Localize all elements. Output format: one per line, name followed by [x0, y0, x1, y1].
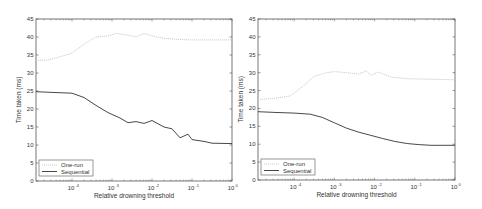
- x-tick-label: 10: [148, 185, 155, 191]
- subplot-2: 05101520253035404510-410-310-210-1100Rel…: [237, 16, 462, 199]
- legend-entry: One-run: [283, 161, 305, 167]
- x-tick-label: 10: [108, 185, 115, 191]
- x-tick-exponent: -4: [76, 183, 80, 188]
- x-tick-label: 10: [68, 185, 75, 191]
- series-one-run: [36, 33, 232, 60]
- y-tick-label: 10: [27, 142, 34, 148]
- x-tick-exponent: -1: [196, 183, 200, 188]
- x-tick-label: 10: [330, 184, 337, 190]
- x-tick-exponent: -2: [378, 182, 382, 187]
- x-tick-label: 10: [290, 184, 297, 190]
- x-tick-exponent: -1: [418, 182, 422, 187]
- legend-entry: Sequential: [61, 169, 89, 175]
- legend: One-runSequential: [39, 160, 93, 176]
- x-tick-exponent: -3: [338, 182, 342, 187]
- x-tick-exponent: -2: [156, 183, 160, 188]
- y-tick-label: 45: [249, 16, 256, 22]
- y-tick-label: 5: [252, 159, 256, 165]
- y-tick-label: 25: [249, 88, 256, 94]
- x-tick-exponent: 0: [459, 182, 462, 187]
- x-tick-label: 10: [228, 185, 235, 191]
- y-tick-label: 30: [27, 70, 34, 76]
- subplot-1: 05101520253035404510-410-310-210-1100Rel…: [15, 16, 239, 200]
- x-tick-exponent: -3: [116, 183, 120, 188]
- y-axis-label: Time taken (ms): [15, 77, 23, 124]
- y-tick-label: 30: [249, 70, 256, 76]
- x-tick-exponent: -4: [298, 182, 302, 187]
- plot-area: [258, 19, 455, 180]
- y-tick-label: 0: [30, 178, 34, 184]
- y-tick-label: 25: [27, 88, 34, 94]
- figure: 05101520253035404510-410-310-210-1100Rel…: [0, 0, 482, 209]
- y-tick-label: 0: [252, 177, 256, 183]
- y-tick-label: 40: [27, 34, 34, 40]
- series-sequential: [36, 92, 232, 144]
- x-tick-label: 10: [188, 185, 195, 191]
- y-tick-label: 45: [27, 16, 34, 22]
- x-tick-exponent: 0: [236, 183, 239, 188]
- x-tick-label: 10: [370, 184, 377, 190]
- legend-entry: One-run: [61, 162, 83, 168]
- legend-entry: Sequential: [283, 168, 311, 174]
- y-tick-label: 40: [249, 34, 256, 40]
- y-tick-label: 35: [27, 52, 34, 58]
- y-tick-label: 35: [249, 52, 256, 58]
- y-tick-label: 15: [27, 124, 34, 130]
- y-tick-label: 20: [27, 106, 34, 112]
- y-tick-label: 15: [249, 123, 256, 129]
- x-axis-label: Relative drowning threshold: [94, 192, 175, 200]
- series-one-run: [258, 71, 455, 100]
- y-tick-label: 20: [249, 105, 256, 111]
- plot-area: [36, 19, 232, 181]
- x-axis-label: Relative drowning threshold: [316, 191, 397, 199]
- x-tick-label: 10: [410, 184, 417, 190]
- series-sequential: [258, 112, 455, 146]
- x-tick-label: 10: [451, 184, 458, 190]
- y-axis-label: Time taken (ms): [237, 76, 245, 123]
- legend: One-runSequential: [261, 159, 315, 175]
- y-tick-label: 10: [249, 141, 256, 147]
- y-tick-label: 5: [30, 160, 34, 166]
